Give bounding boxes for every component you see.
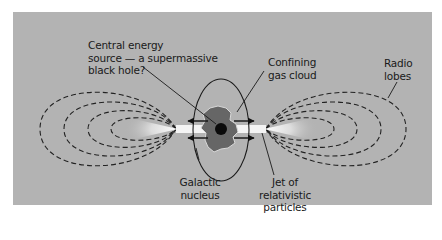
label-central-energy-source: Central energy source — a supermassive b… bbox=[88, 39, 218, 77]
black-hole bbox=[215, 123, 227, 135]
leader-lines bbox=[143, 67, 397, 175]
label-jet-of-relativistic-particles: Jet of relativistic particles bbox=[250, 176, 320, 214]
label-galactic-nucleus: Galactic nucleus bbox=[160, 176, 240, 201]
label-confining-gas-cloud: Confining gas cloud bbox=[268, 56, 317, 81]
label-radio-lobes: Radio lobes bbox=[384, 57, 413, 82]
